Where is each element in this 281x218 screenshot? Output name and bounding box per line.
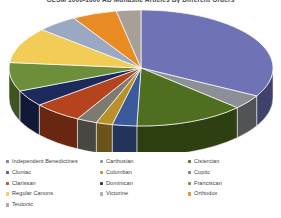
legend-item[interactable]: Regular Canons: [6, 189, 100, 198]
legend-item[interactable]: Coptic: [188, 168, 278, 177]
legend-swatch-icon: [6, 171, 9, 174]
legend-item[interactable]: Columban: [100, 168, 188, 177]
pie-plot-area: [0, 6, 281, 152]
legend-item[interactable]: Teutonic: [6, 200, 100, 209]
pie-chart-figure: GLSM 1000-1600 AD Monastic Articles By D…: [0, 0, 281, 218]
legend-swatch-icon: [6, 160, 9, 163]
legend-swatch-icon: [6, 182, 9, 185]
legend-label: Carthusian: [106, 157, 134, 166]
legend-label: Coptic: [194, 168, 210, 177]
chart-title: GLSM 1000-1600 AD Monastic Articles By D…: [0, 0, 281, 3]
legend-label: Dominican: [106, 179, 133, 188]
legend-label: Cluniac: [12, 168, 31, 177]
legend-item[interactable]: Carthusian: [100, 157, 188, 166]
legend-swatch-icon: [188, 160, 191, 163]
legend-label: Cistercian: [194, 157, 219, 166]
legend-item[interactable]: Cistercian: [188, 157, 278, 166]
legend-item[interactable]: Clarissan: [6, 179, 100, 188]
legend-swatch-icon: [100, 171, 103, 174]
legend-swatch-icon: [100, 160, 103, 163]
pie-svg: [0, 6, 281, 152]
legend-label: Teutonic: [12, 200, 33, 209]
legend-item[interactable]: Dominican: [100, 179, 188, 188]
pie-slice-side: [77, 119, 96, 152]
legend-swatch-icon: [100, 182, 103, 185]
legend-label: Independent Benedictines: [12, 157, 78, 166]
legend-item[interactable]: Franciscan: [188, 179, 278, 188]
legend-swatch-icon: [188, 171, 191, 174]
legend-swatch-icon: [6, 203, 9, 206]
pie-top-slices: [9, 10, 273, 126]
legend-label: Victorine: [106, 189, 128, 198]
legend-swatch-icon: [188, 192, 191, 195]
legend-column-3: CistercianCopticFranciscanOrthodox: [188, 157, 278, 218]
legend-label: Regular Canons: [12, 189, 53, 198]
legend-item[interactable]: Orthodox: [188, 189, 278, 198]
legend-item[interactable]: Cluniac: [6, 168, 100, 177]
legend-item[interactable]: Independent Benedictines: [6, 157, 100, 166]
legend-label: Clarissan: [12, 179, 36, 188]
legend-swatch-icon: [188, 182, 191, 185]
legend-column-1: Independent BenedictinesCluniacClarissan…: [6, 157, 100, 218]
legend-column-2: CarthusianColumbanDominicanVictorine: [100, 157, 188, 218]
legend-swatch-icon: [100, 192, 103, 195]
legend-label: Columban: [106, 168, 132, 177]
pie-slice-side: [112, 125, 137, 152]
pie-slice-side: [96, 123, 112, 152]
legend-item[interactable]: Victorine: [100, 189, 188, 198]
chart-legend: Independent BenedictinesCluniacClarissan…: [0, 157, 281, 218]
legend-swatch-icon: [6, 192, 9, 195]
legend-label: Franciscan: [194, 179, 222, 188]
legend-label: Orthodox: [194, 189, 217, 198]
